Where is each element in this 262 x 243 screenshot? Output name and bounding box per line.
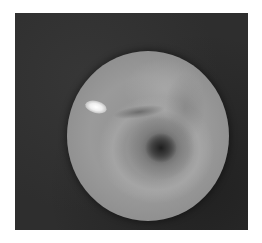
tissue-shading	[165, 73, 205, 143]
endoscopic-image-frame	[15, 13, 248, 230]
endoscopic-field-of-view	[67, 51, 229, 221]
